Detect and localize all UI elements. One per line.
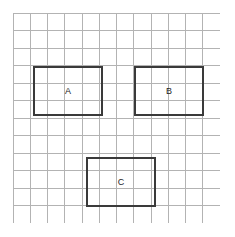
shape-label-a: A [35, 87, 101, 96]
shape-rectangle-a: A [33, 66, 103, 116]
shape-rectangle-c: C [86, 157, 156, 207]
shape-rectangle-b: B [134, 66, 204, 116]
shape-label-b: B [136, 87, 202, 96]
grid-figure: A B C [0, 0, 235, 237]
shape-label-c: C [88, 178, 154, 187]
